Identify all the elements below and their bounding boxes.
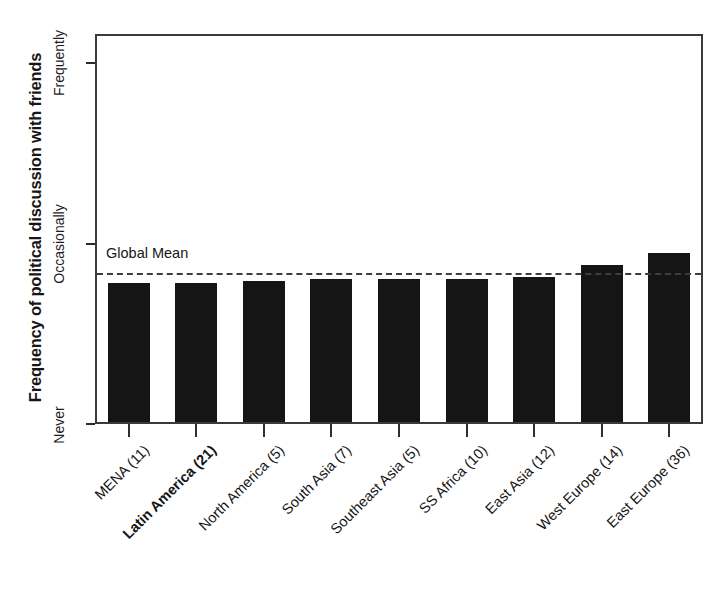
x-tick-mark [398,424,400,437]
global-mean-label: Global Mean [106,245,188,261]
bar [513,277,555,422]
x-tick-mark [601,424,603,437]
bar [581,265,623,422]
x-tick-mark [533,424,535,437]
plot-area: Global Mean [95,34,703,424]
y-tick-label-frequently: Frequently [51,3,67,123]
global-mean-line [97,273,701,275]
bar [378,279,420,422]
y-axis-title: Frequency of political discussion with f… [26,18,45,438]
y-tick-mark-occasionally [86,243,95,245]
y-tick-mark-never [86,423,95,425]
x-tick-mark [195,424,197,437]
bar [243,281,285,422]
bar [648,253,690,422]
y-tick-label-never: Never [51,365,67,485]
bar [446,279,488,422]
x-tick-mark [668,424,670,437]
bar [108,283,150,422]
x-tick-label: Latin America (21) [0,442,220,605]
bar [310,279,352,422]
y-tick-label-occasionally: Occasionally [51,184,67,304]
x-tick-mark [128,424,130,437]
x-tick-mark [466,424,468,437]
x-tick-mark [330,424,332,437]
bar-chart-figure: Frequency of political discussion with f… [0,0,722,605]
y-tick-mark-frequently [86,62,95,64]
bar [175,283,217,422]
x-tick-mark [263,424,265,437]
